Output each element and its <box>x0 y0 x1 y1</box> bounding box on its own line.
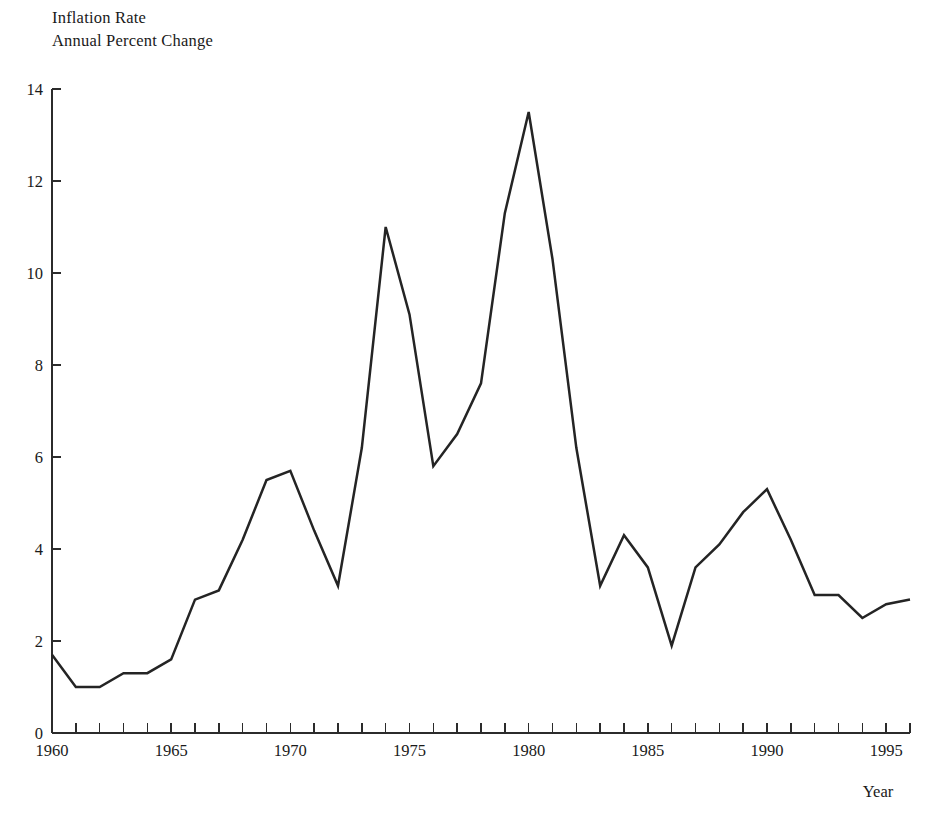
x-tick-label: 1985 <box>631 741 664 760</box>
x-tick-label: 1960 <box>36 741 69 760</box>
y-tick-label-group: 02468101214 <box>27 80 44 743</box>
y-tick-label: 8 <box>35 356 43 375</box>
y-tick-label: 6 <box>35 448 43 467</box>
x-tick-group <box>52 723 910 733</box>
y-tick-label: 2 <box>35 632 43 651</box>
y-tick-group <box>52 89 61 733</box>
x-tick-label: 1975 <box>393 741 426 760</box>
x-tick-label-group: 19601965197019751980198519901995 <box>36 741 903 760</box>
y-tick-label: 12 <box>27 172 44 191</box>
y-tick-label: 10 <box>27 264 44 283</box>
y-tick-label: 0 <box>35 724 43 743</box>
x-tick-label: 1990 <box>751 741 784 760</box>
x-axis: 19601965197019751980198519901995 <box>36 723 911 760</box>
x-axis-label: Year <box>863 782 894 801</box>
inflation-series-line <box>52 112 910 687</box>
x-tick-label: 1970 <box>274 741 307 760</box>
x-tick-label: 1965 <box>155 741 188 760</box>
chart-page: Inflation Rate Annual Percent Change 024… <box>0 0 930 819</box>
y-axis: 02468101214 <box>27 80 62 743</box>
x-tick-label: 1995 <box>870 741 903 760</box>
x-tick-label: 1980 <box>512 741 545 760</box>
line-chart-plot: 02468101214 1960196519701975198019851990… <box>0 0 930 819</box>
y-tick-label: 14 <box>27 80 44 99</box>
y-tick-label: 4 <box>35 540 43 559</box>
